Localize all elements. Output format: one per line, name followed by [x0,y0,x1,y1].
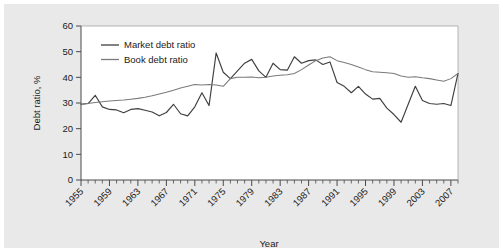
x-axis-title: Year [259,238,278,249]
y-tick-label: 10 [62,149,73,160]
x-tick-label: 1963 [120,186,143,209]
x-tick-label: 1995 [347,186,370,209]
legend-label-2: Book debt ratio [124,54,188,65]
x-tick-label: 1991 [319,186,342,209]
x-tick-label: 1955 [63,186,86,209]
debt-ratio-line-chart: 0102030405060 19551959196319671971197519… [4,4,503,252]
x-tick-label: 1979 [233,186,256,209]
x-tick-label: 2003 [404,186,427,209]
x-tick-label: 1967 [148,186,171,209]
figure-container: 0102030405060 19551959196319671971197519… [0,0,503,252]
legend-label-1: Market debt ratio [124,39,195,50]
y-tick-label: 40 [62,72,73,83]
y-axis-ticks: 0102030405060 [62,20,81,185]
y-tick-label: 20 [62,123,73,134]
x-tick-label: 2007 [433,186,456,209]
y-tick-label: 50 [62,46,73,57]
x-tick-label: 1999 [376,186,399,209]
x-tick-label: 1987 [290,186,313,209]
x-tick-label: 1971 [176,186,199,209]
y-axis-title: Debt ratio, % [31,75,42,130]
y-tick-label: 60 [62,20,73,31]
y-tick-label: 0 [68,174,73,185]
x-tick-label: 1975 [205,186,228,209]
y-tick-label: 30 [62,97,73,108]
x-tick-label: 1959 [91,186,114,209]
x-axis-ticks: 1955195919631967197119751979198319871991… [63,180,458,208]
x-tick-label: 1983 [262,186,285,209]
